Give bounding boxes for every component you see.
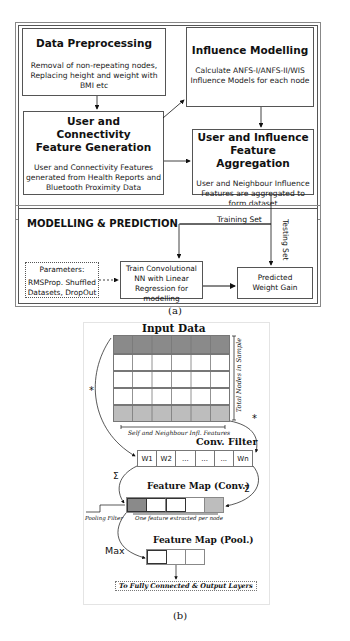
figure-b-arrows xyxy=(0,0,350,641)
